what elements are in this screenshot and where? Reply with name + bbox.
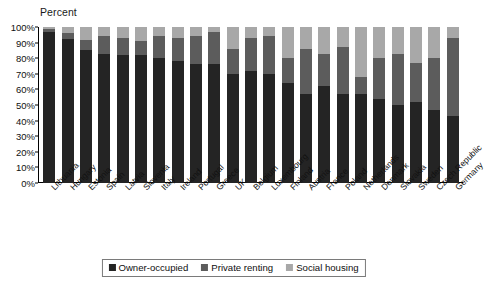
bar-segment-private-renting [447, 38, 459, 116]
bar-slot [205, 27, 223, 183]
bar-segment-social-housing [318, 27, 330, 54]
bar-segment-social-housing [300, 27, 312, 49]
bar-segment-social-housing [153, 27, 165, 36]
legend-label: Private renting [211, 262, 273, 273]
bar-segment-private-renting [355, 77, 367, 94]
bar-segment-social-housing [392, 27, 404, 54]
bar-slot [425, 27, 443, 183]
bar-segment-private-renting [392, 54, 404, 105]
stacked-bar[interactable] [135, 27, 147, 183]
bar-slot [168, 27, 186, 183]
bar-slot [223, 27, 241, 183]
stacked-bar[interactable] [282, 27, 294, 183]
bar-segment-private-renting [135, 41, 147, 55]
stacked-bar[interactable] [153, 27, 165, 183]
bar-slot [132, 27, 150, 183]
bar-slot [77, 27, 95, 183]
bar-segment-social-housing [282, 27, 294, 58]
legend-item[interactable]: Owner-occupied [108, 262, 188, 273]
stacked-bar[interactable] [337, 27, 349, 183]
bar-segment-private-renting [245, 38, 257, 71]
stacked-bar[interactable] [263, 27, 275, 183]
bar-segment-social-housing [172, 27, 184, 38]
bar-slot [113, 27, 131, 183]
bar-segment-owner-occupied [98, 54, 110, 183]
stacked-bar[interactable] [98, 27, 110, 183]
y-axis-tick-label: 60% [16, 84, 35, 95]
bar-segment-private-renting [153, 36, 165, 58]
y-axis-tick-label: 100% [11, 22, 35, 33]
bar-segment-social-housing [355, 27, 367, 77]
bar-segment-private-renting [373, 58, 385, 99]
stacked-bar[interactable] [208, 27, 220, 183]
stacked-bar[interactable] [172, 27, 184, 183]
stacked-bar[interactable] [428, 27, 440, 183]
legend-label: Owner-occupied [118, 262, 188, 273]
stacked-bar[interactable] [190, 27, 202, 183]
stacked-bar[interactable] [410, 27, 422, 183]
stacked-bar[interactable] [245, 27, 257, 183]
bar-segment-social-housing [117, 27, 129, 38]
bar-segment-social-housing [447, 27, 459, 38]
bar-segment-social-housing [98, 27, 110, 36]
y-axis-tick-label: 10% [16, 162, 35, 173]
bar-segment-private-renting [337, 47, 349, 94]
bar-slot [95, 27, 113, 183]
stacked-bar[interactable] [373, 27, 385, 183]
legend-item[interactable]: Private renting [201, 262, 273, 273]
bar-slot [407, 27, 425, 183]
bar-segment-owner-occupied [117, 55, 129, 183]
bar-slot [260, 27, 278, 183]
chart-legend: Owner-occupiedPrivate rentingSocial hous… [101, 259, 365, 277]
stacked-bar[interactable] [80, 27, 92, 183]
bar-segment-social-housing [245, 27, 257, 38]
bar-segment-private-renting [410, 63, 422, 102]
bar-slot [352, 27, 370, 183]
bar-segment-private-renting [227, 49, 239, 74]
stacked-bar[interactable] [62, 27, 74, 183]
bar-segment-social-housing [227, 27, 239, 49]
stacked-bar[interactable] [355, 27, 367, 183]
bar-segment-private-renting [190, 36, 202, 64]
legend-swatch-icon [286, 264, 293, 271]
legend-swatch-icon [201, 264, 208, 271]
bar-segment-private-renting [172, 38, 184, 61]
bar-segment-social-housing [428, 27, 440, 58]
stacked-bar[interactable] [318, 27, 330, 183]
legend-swatch-icon [108, 264, 115, 271]
x-axis-labels: LithuaniaHungaryEstoniaSpainLatviaSloven… [38, 185, 463, 245]
bar-slot [334, 27, 352, 183]
bar-segment-private-renting [282, 58, 294, 83]
y-axis-tick-label: 50% [16, 100, 35, 111]
bar-segment-owner-occupied [135, 55, 147, 183]
bar-slot [315, 27, 333, 183]
stacked-bar[interactable] [117, 27, 129, 183]
bar-slot [242, 27, 260, 183]
stacked-bar[interactable] [227, 27, 239, 183]
bar-segment-private-renting [428, 58, 440, 109]
bar-segment-social-housing [410, 27, 422, 63]
bar-segment-private-renting [300, 49, 312, 94]
bar-segment-social-housing [373, 27, 385, 58]
bar-segment-private-renting [318, 54, 330, 87]
y-axis-title: Percent [40, 6, 77, 18]
bar-segment-social-housing [80, 27, 92, 39]
bar-segment-social-housing [190, 27, 202, 36]
legend-item[interactable]: Social housing [286, 262, 358, 273]
y-axis-tick-label: 70% [16, 68, 35, 79]
bar-segment-private-renting [98, 36, 110, 53]
stacked-bar[interactable] [447, 27, 459, 183]
y-axis-tick-label: 0% [21, 178, 35, 189]
bar-segment-social-housing [263, 27, 275, 36]
bar-slot [40, 27, 58, 183]
stacked-bar[interactable] [43, 27, 55, 183]
bar-segment-owner-occupied [245, 71, 257, 183]
y-axis-tick-label: 20% [16, 146, 35, 157]
bar-segment-social-housing [135, 27, 147, 41]
bar-segment-owner-occupied [43, 32, 55, 183]
bar-segment-private-renting [117, 38, 129, 55]
bar-segment-private-renting [80, 40, 92, 51]
y-axis-tick-label: 30% [16, 131, 35, 142]
y-axis-tick-label: 90% [16, 37, 35, 48]
